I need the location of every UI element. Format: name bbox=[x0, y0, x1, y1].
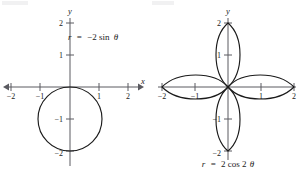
x-tick-label--2: −2 bbox=[158, 92, 167, 101]
equation-label-rose: r = 2 cos 2 θ bbox=[202, 159, 255, 169]
x-tick-label-2: 2 bbox=[292, 92, 296, 101]
y-tick-label-2: 2 bbox=[59, 19, 63, 28]
equation-eq: = bbox=[77, 32, 82, 42]
y-tick-label--2: −2 bbox=[212, 149, 221, 158]
equation-lhs: r bbox=[202, 159, 206, 169]
y-tick-label-1: 1 bbox=[217, 51, 221, 60]
x-axis-group-right bbox=[158, 83, 296, 91]
equation-rhs: −2 sin bbox=[87, 32, 110, 42]
panel-rose: −2 −1 1 2 2 1 −1 −2 y r = 2 cos 2 θ bbox=[150, 0, 301, 172]
x-axis-arrow-left bbox=[3, 84, 9, 91]
x-axis-label: x bbox=[140, 76, 145, 86]
y-axis-group-right bbox=[224, 18, 232, 160]
equation-rhs: 2 cos 2 bbox=[221, 159, 247, 169]
x-tick-label-2: 2 bbox=[126, 92, 130, 101]
equation-lhs: r bbox=[68, 32, 72, 42]
y-tick-label--1: −1 bbox=[212, 115, 221, 124]
x-tick-label-1: 1 bbox=[259, 92, 263, 101]
x-tick-label--1: −1 bbox=[36, 92, 45, 101]
circle-plot-svg: −2 −1 1 2 2 1 −1 −2 x y r = −2 sin θ bbox=[0, 0, 150, 172]
x-tick-label--2: −2 bbox=[7, 92, 16, 101]
rose-plot-svg: −2 −1 1 2 2 1 −1 −2 y r = 2 cos 2 θ bbox=[150, 0, 301, 172]
equation-theta: θ bbox=[114, 32, 119, 42]
equation-eq: = bbox=[211, 159, 216, 169]
y-axis-label: y bbox=[67, 6, 72, 16]
polar-graphs-figure: −2 −1 1 2 2 1 −1 −2 x y r = −2 sin θ bbox=[0, 0, 301, 172]
y-tick-label-2: 2 bbox=[217, 19, 221, 28]
y-tick-label--1: −1 bbox=[54, 115, 63, 124]
x-tick-label-1: 1 bbox=[97, 92, 101, 101]
equation-label-circle: r = −2 sin θ bbox=[68, 32, 119, 42]
y-tick-label--2: −2 bbox=[54, 149, 63, 158]
equation-theta: θ bbox=[250, 159, 255, 169]
y-tick-label-1: 1 bbox=[59, 51, 63, 60]
x-tick-label--1: −1 bbox=[191, 92, 200, 101]
panel-circle: −2 −1 1 2 2 1 −1 −2 x y r = −2 sin θ bbox=[0, 0, 150, 172]
y-axis-label: y bbox=[225, 6, 230, 16]
